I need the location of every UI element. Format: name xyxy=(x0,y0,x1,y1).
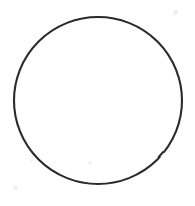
image-canvas xyxy=(0,0,195,206)
circle-figure xyxy=(0,0,195,206)
circle-stroke xyxy=(14,17,182,184)
